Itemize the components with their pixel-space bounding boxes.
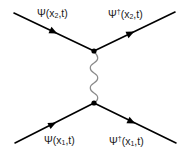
arrow-outgoing-bottom bbox=[126, 117, 136, 127]
label-rest: ,t) bbox=[65, 134, 74, 146]
vertex-top bbox=[91, 48, 96, 53]
field-symbol: Ψ bbox=[109, 135, 118, 147]
label-rest: ,t) bbox=[58, 7, 67, 19]
feynman-diagram bbox=[0, 0, 186, 160]
field-symbol: Ψ bbox=[108, 8, 117, 20]
vertex-bottom bbox=[91, 100, 96, 105]
arrow-incoming-top bbox=[48, 27, 58, 37]
label-rest: ,t) bbox=[133, 8, 142, 20]
photon-propagator bbox=[90, 52, 98, 103]
label-psi-x2: Ψ(x2,t) bbox=[37, 8, 68, 19]
label-rest: ,t) bbox=[134, 135, 143, 147]
field-symbol: Ψ bbox=[37, 7, 46, 19]
label-psi-x1: Ψ(x1,t) bbox=[44, 135, 75, 146]
label-psi-dagger-x1: Ψ†(x1,t) bbox=[109, 135, 144, 147]
dagger-symbol: † bbox=[117, 8, 121, 15]
dagger-symbol: † bbox=[118, 135, 122, 142]
field-symbol: Ψ bbox=[44, 134, 53, 146]
arrow-incoming-bottom bbox=[47, 119, 57, 129]
label-psi-dagger-x2: Ψ†(x2,t) bbox=[108, 8, 143, 20]
arrow-outgoing-top bbox=[125, 28, 135, 38]
